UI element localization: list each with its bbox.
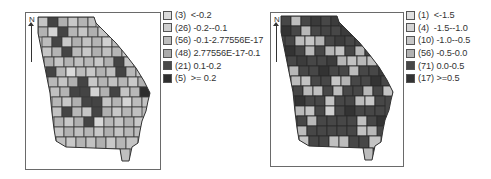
right-georgia-map <box>271 13 403 166</box>
legend-swatch <box>406 36 415 45</box>
legend-item: (10) -1.0--0.5 <box>406 34 470 47</box>
legend-swatch <box>406 74 415 83</box>
right-north-arrow: N <box>274 16 280 24</box>
legend-item: (71) 0.0-0.5 <box>406 59 470 72</box>
legend-swatch <box>406 49 415 58</box>
legend-item: (17) >=0.5 <box>406 72 470 85</box>
legend-swatch <box>163 11 172 20</box>
legend-swatch <box>406 23 415 32</box>
right-map-frame: N <box>270 12 404 167</box>
legend-swatch <box>163 49 172 58</box>
legend-item: (26) -0.2--0.1 <box>163 22 263 35</box>
legend-item: (56) -0.5-0.0 <box>406 47 470 60</box>
legend-item: (48) 2.77556E-17-0.1 <box>163 47 263 60</box>
legend-item: (21) 0.1-0.2 <box>163 59 263 72</box>
legend-swatch <box>406 61 415 70</box>
legend-item: (3) <-0.2 <box>163 9 263 22</box>
legend-item: (5) >= 0.2 <box>163 72 263 85</box>
legend-swatch <box>163 36 172 45</box>
left-georgia-map <box>26 13 160 169</box>
legend-item: (56) -0.1-2.77556E-17 <box>163 34 263 47</box>
left-legend: (3) <-0.2 (26) -0.2--0.1 (56) -0.1-2.775… <box>163 9 263 85</box>
legend-swatch <box>163 23 172 32</box>
right-legend: (1) <-1.5 (4) -1.5--1.0 (10) -1.0--0.5 (… <box>406 9 470 85</box>
legend-swatch <box>163 61 172 70</box>
legend-item: (1) <-1.5 <box>406 9 470 22</box>
legend-swatch <box>406 11 415 20</box>
legend-swatch <box>163 74 172 83</box>
legend-item: (4) -1.5--1.0 <box>406 22 470 35</box>
left-north-arrow: N <box>29 16 35 24</box>
left-map-frame: N <box>25 12 161 170</box>
